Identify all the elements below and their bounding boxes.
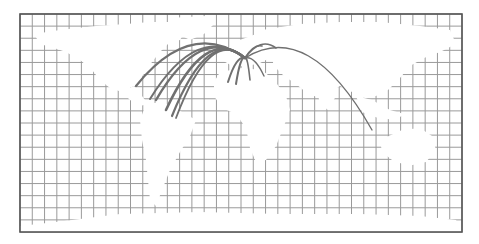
continent-africa [214,68,290,162]
continent-antarctica [20,212,462,232]
continent-india [316,86,336,110]
map-canvas [0,0,479,244]
world-flow-map [0,0,479,244]
continent-south-america [140,102,196,206]
